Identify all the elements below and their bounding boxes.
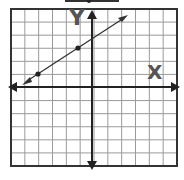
y-axis-up-arrow-icon	[87, 10, 97, 19]
y-axis-label: Y	[69, 7, 85, 29]
x-axis-right-arrow-icon	[171, 82, 180, 92]
x-axis-left-arrow-icon	[8, 82, 17, 92]
graph-svg	[0, 0, 184, 180]
x-axis-label: X	[147, 62, 162, 82]
point-a	[35, 71, 40, 76]
coordinate-plane: Y X	[0, 0, 184, 180]
point-b	[75, 45, 80, 50]
